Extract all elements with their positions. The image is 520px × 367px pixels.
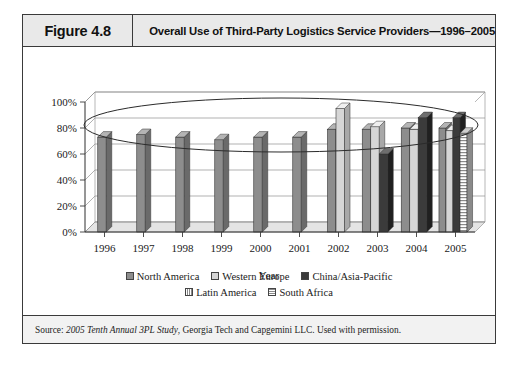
chart-bar xyxy=(460,128,473,232)
x-axis-tick-label: 1996 xyxy=(94,242,117,254)
chart-bar xyxy=(254,132,268,232)
y-axis-tick-label: 60% xyxy=(57,148,77,160)
chart-plot-area: 0%20%40%60%80%100% 199619971998199920002… xyxy=(23,47,495,285)
x-axis-tick-label: 1998 xyxy=(172,242,195,254)
figure-box: Figure 4.8 Overall Use of Third-Party Lo… xyxy=(22,14,496,344)
chart-legend: North AmericaWestern EuropeChina/Asia-Pa… xyxy=(23,267,495,300)
figure-title: Overall Use of Third-Party Logistics Ser… xyxy=(133,25,495,37)
figure-number-label: Figure 4.8 xyxy=(23,15,133,46)
x-axis-tick-label: 2004 xyxy=(406,242,429,254)
chart-bar xyxy=(98,132,112,232)
x-axis-tick-label: 2000 xyxy=(250,242,273,254)
figure-source-bar: Source: 2005 Tenth Annual 3PL Study, Geo… xyxy=(23,315,495,343)
legend-item[interactable]: China/Asia-Pacific xyxy=(301,268,392,284)
figure-source-text: Source: 2005 Tenth Annual 3PL Study, Geo… xyxy=(23,325,401,335)
y-axis-tick-label: 80% xyxy=(57,122,77,134)
legend-item[interactable]: Latin America xyxy=(185,284,256,300)
chart-bar xyxy=(176,132,190,232)
chart-bar xyxy=(418,112,432,232)
legend-swatch-western-europe xyxy=(211,272,219,280)
chart-bar xyxy=(293,132,307,232)
x-axis-ticks xyxy=(105,232,456,237)
y-axis-tick-labels: 0%20%40%60%80%100% xyxy=(51,96,77,238)
legend-item-label: Western Europe xyxy=(222,271,289,282)
x-axis-tick-label: 2005 xyxy=(445,242,468,254)
source-prefix: Source: xyxy=(35,325,66,335)
legend-swatch-china-asia-pacific xyxy=(301,272,309,280)
y-axis-tick-label: 0% xyxy=(62,226,77,238)
y-axis-tick-label: 100% xyxy=(51,96,77,108)
x-axis-tick-label: 2001 xyxy=(289,242,311,254)
y-axis-ticks xyxy=(80,102,85,232)
chart-bar xyxy=(379,149,393,233)
legend-item[interactable]: South Africa xyxy=(268,284,332,300)
x-axis-tick-label: 1999 xyxy=(211,242,234,254)
y-axis-tick-label: 20% xyxy=(57,200,77,212)
source-remainder: , Georgia Tech and Capgemini LLC. Used w… xyxy=(178,325,401,335)
legend-item[interactable]: Western Europe xyxy=(211,268,289,284)
source-study-title: 2005 Tenth Annual 3PL Study xyxy=(66,325,178,335)
x-axis-tick-label: 2002 xyxy=(328,242,350,254)
legend-item[interactable]: North America xyxy=(126,268,200,284)
legend-row: Latin AmericaSouth Africa xyxy=(23,284,495,301)
x-axis-tick-labels: 1996199719981999200020012002200320042005 xyxy=(94,242,468,254)
bar-chart-svg: 0%20%40%60%80%100% 199619971998199920002… xyxy=(23,47,497,285)
x-axis-tick-label: 1997 xyxy=(133,242,156,254)
legend-swatch-latin-america xyxy=(185,288,193,296)
legend-swatch-south-africa xyxy=(268,288,276,296)
legend-item-label: Latin America xyxy=(196,287,256,298)
figure-header: Figure 4.8 Overall Use of Third-Party Lo… xyxy=(23,15,495,47)
legend-item-label: China/Asia-Pacific xyxy=(312,271,392,282)
legend-item-label: South Africa xyxy=(279,287,332,298)
chart-bar xyxy=(215,134,229,232)
legend-item-label: North America xyxy=(137,271,200,282)
legend-swatch-north-america xyxy=(126,272,134,280)
legend-row: North AmericaWestern EuropeChina/Asia-Pa… xyxy=(23,267,495,284)
chart-bar xyxy=(336,103,350,232)
x-axis-tick-label: 2003 xyxy=(367,242,390,254)
y-axis-tick-label: 40% xyxy=(57,174,77,186)
